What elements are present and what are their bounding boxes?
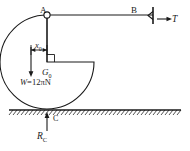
dimension-arrowhead-right-icon <box>43 48 47 52</box>
label-point-b: B <box>131 6 137 15</box>
right-angle-mark <box>47 55 55 63</box>
label-point-a: A <box>40 6 47 15</box>
label-weight-value: =12 <box>27 77 40 87</box>
label-point-c: C <box>53 115 58 123</box>
label-dimension-x0-sub: 0 <box>39 45 42 51</box>
ground-hatching <box>9 110 181 115</box>
diagram-svg <box>0 0 190 151</box>
label-dimension-x0: x0 <box>35 41 42 52</box>
physics-figure: A B T x0 G0 W=12πN C RC <box>0 0 190 151</box>
label-tension-t: T <box>172 15 177 25</box>
label-weight-unit: N <box>45 77 51 87</box>
label-weight: W=12πN <box>20 78 51 87</box>
label-reaction-rc-sub: C <box>43 136 47 143</box>
label-reaction-rc: RC <box>37 132 47 143</box>
